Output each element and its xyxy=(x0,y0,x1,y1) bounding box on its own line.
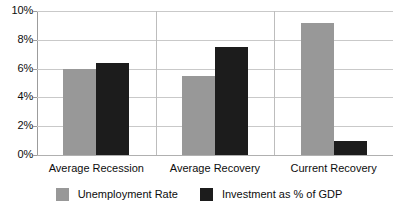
y-axis-tick-label: 10% xyxy=(0,5,33,16)
legend-label: Investment as % of GDP xyxy=(222,188,342,200)
legend-color-swatch xyxy=(200,188,213,201)
gridline xyxy=(37,40,393,41)
y-axis-tick-label: 4% xyxy=(0,91,33,102)
bar xyxy=(182,76,215,155)
bar-chart: 0%2%4%6%8%10% Average RecessionAverage R… xyxy=(0,0,398,209)
x-axis-category-label: Average Recovery xyxy=(156,162,275,175)
bar xyxy=(96,63,129,155)
y-axis-tick-label: 2% xyxy=(0,120,33,131)
y-axis-tick-labels: 0%2%4%6%8%10% xyxy=(0,0,33,209)
bar xyxy=(301,23,334,155)
y-axis-tick-mark xyxy=(33,11,37,12)
legend-label: Unemployment Rate xyxy=(78,188,178,200)
gridline xyxy=(37,11,393,12)
legend-item: Unemployment Rate xyxy=(56,188,178,201)
plot-area xyxy=(37,11,393,155)
y-axis-tick-label: 0% xyxy=(0,149,33,160)
legend-color-swatch xyxy=(56,188,69,201)
y-axis-tick-mark xyxy=(33,97,37,98)
x-axis-category-label: Current Recovery xyxy=(274,162,393,175)
y-axis-tick-mark xyxy=(33,126,37,127)
category-separator xyxy=(274,11,275,155)
y-axis-tick-mark xyxy=(33,69,37,70)
y-axis-tick-label: 8% xyxy=(0,34,33,45)
x-axis-category-label: Average Recession xyxy=(37,162,156,175)
gridline xyxy=(37,155,393,156)
category-separator xyxy=(156,11,157,155)
chart-legend: Unemployment RateInvestment as % of GDP xyxy=(0,182,398,206)
y-axis-tick-label: 6% xyxy=(0,63,33,74)
bar xyxy=(215,47,248,155)
legend-item: Investment as % of GDP xyxy=(200,188,342,201)
bar xyxy=(334,141,367,155)
bar xyxy=(63,69,96,155)
y-axis-tick-mark xyxy=(33,40,37,41)
y-axis-tick-mark xyxy=(33,155,37,156)
